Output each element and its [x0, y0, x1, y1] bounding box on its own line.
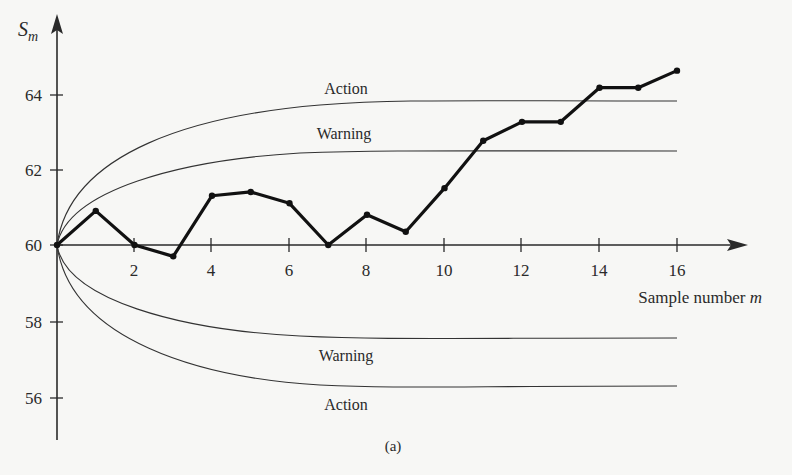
data-point [170, 253, 176, 259]
x-tick-6: 6 [285, 261, 294, 280]
y-tick-58: 58 [25, 313, 42, 332]
x-tick-14: 14 [591, 261, 609, 280]
data-point [364, 211, 370, 217]
x-tick-10: 10 [436, 261, 453, 280]
data-point [674, 67, 680, 73]
control-chart: 64 62 60 58 56 2 4 6 8 10 12 14 16 Sm Sa… [0, 0, 792, 475]
data-point [54, 242, 60, 248]
x-tick-4: 4 [207, 261, 216, 280]
upper-warning-limit [57, 151, 677, 245]
control-limits [57, 101, 677, 387]
series-line-sm [57, 71, 677, 257]
data-point [248, 189, 254, 195]
data-point [596, 85, 602, 91]
y-tick-60: 60 [25, 236, 42, 255]
data-point [286, 200, 292, 206]
data-point [441, 185, 447, 191]
figure-caption: (a) [385, 438, 402, 455]
x-axis-label: Sample number m [638, 288, 762, 307]
data-point [558, 119, 564, 125]
upper-warning-label: Warning [317, 125, 372, 143]
lower-action-label: Action [324, 396, 368, 413]
x-tick-12: 12 [513, 261, 530, 280]
data-point [209, 193, 215, 199]
data-point [480, 138, 486, 144]
data-point [403, 229, 409, 235]
x-tick-16: 16 [669, 261, 686, 280]
y-tick-64: 64 [25, 86, 43, 105]
data-point [93, 208, 99, 214]
data-point [519, 119, 525, 125]
x-tick-labels: 2 4 6 8 10 12 14 16 [130, 261, 686, 280]
y-axis-label: Sm [18, 18, 38, 44]
y-tick-56: 56 [25, 389, 42, 408]
data-point [325, 242, 331, 248]
upper-action-label: Action [324, 80, 368, 97]
data-point [131, 242, 137, 248]
y-tick-62: 62 [25, 161, 42, 180]
x-tick-8: 8 [362, 261, 371, 280]
x-tick-2: 2 [130, 261, 139, 280]
data-point [635, 85, 641, 91]
y-tick-labels: 64 62 60 58 56 [25, 86, 43, 408]
upper-action-limit [57, 101, 677, 245]
lower-warning-limit [57, 245, 677, 339]
lower-warning-label: Warning [319, 347, 374, 365]
